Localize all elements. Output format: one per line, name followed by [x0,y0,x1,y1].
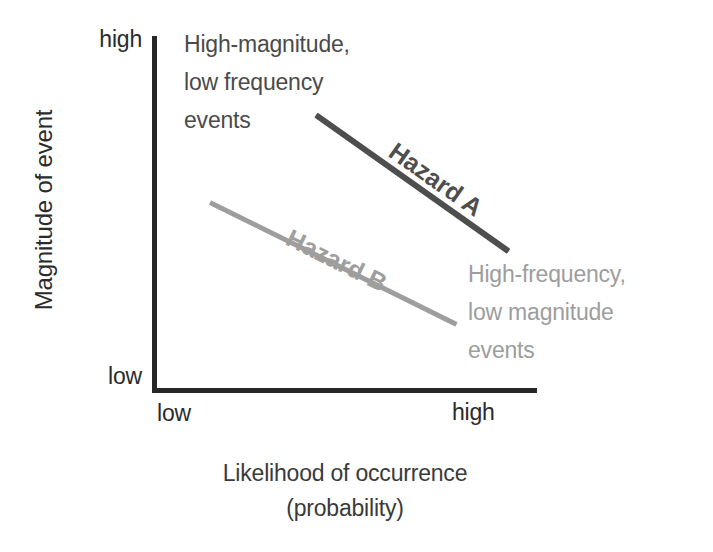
y-tick-label-high: high [99,26,142,53]
x-axis-title-line-1: Likelihood of occurrence [223,460,468,486]
hazard-likelihood-chart: Magnitude of event high low low high Lik… [0,0,713,552]
hazard-b-label: Hazard B [282,224,392,298]
y-axis-title: Magnitude of event [30,45,58,375]
x-axis-line [152,388,537,393]
y-tick-label-low: low [108,363,142,390]
hazard-a-label: Hazard A [384,137,488,223]
y-axis-line [152,36,157,393]
hazard-a-trend-line [314,113,510,254]
annotation-high-frequency-low-magnitude: High-frequency, low magnitude events [468,255,626,369]
x-tick-label-low: low [157,400,191,427]
x-axis-title-line-2: (probability) [120,491,570,526]
x-tick-label-high: high [452,399,495,426]
x-axis-title: Likelihood of occurrence (probability) [120,456,570,526]
